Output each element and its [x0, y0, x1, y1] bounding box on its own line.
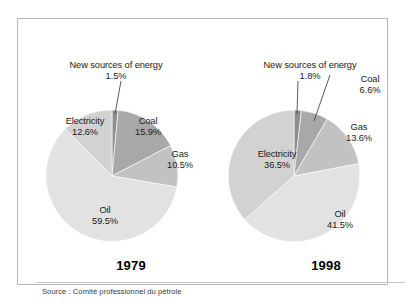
label-1998-oil-pct: 41.5%: [318, 220, 362, 231]
label-1998-electricity: Electricity 36.5%: [246, 149, 308, 171]
label-1998-oil-name: Oil: [334, 209, 345, 219]
label-1979-coal-pct: 15.9%: [122, 127, 174, 138]
chart-year-1979: 1979: [86, 258, 176, 273]
label-1998-electricity-pct: 36.5%: [246, 160, 308, 171]
label-1979-oil-name: Oil: [99, 205, 110, 215]
label-1998-new-sources-name: New sources of energy: [264, 60, 357, 70]
label-1998-coal: Coal 6.6%: [348, 74, 392, 96]
label-1998-coal-pct: 6.6%: [348, 85, 392, 96]
label-1979-new-sources: New sources of energy 1.5%: [46, 60, 186, 82]
label-1979-oil-pct: 59.5%: [80, 216, 130, 227]
label-1998-gas: Gas 13.6%: [338, 122, 380, 144]
source-note: Source : Comité professionnel du pétrole: [42, 287, 182, 296]
label-1979-gas: Gas 10.5%: [160, 149, 200, 171]
label-1998-gas-pct: 13.6%: [338, 133, 380, 144]
figure-root: New sources of energy 1.5% Coal 15.9% El…: [0, 0, 406, 303]
label-1998-electricity-name: Electricity: [258, 149, 297, 159]
label-1979-oil: Oil 59.5%: [80, 205, 130, 227]
label-1979-gas-name: Gas: [172, 149, 189, 159]
label-1998-coal-name: Coal: [361, 74, 380, 84]
leader-line-1998-new-sources: [297, 81, 298, 114]
source-divider: [36, 282, 405, 283]
label-1979-coal-name: Coal: [139, 116, 158, 126]
chart-year-1998: 1998: [281, 258, 371, 273]
chart-frame: New sources of energy 1.5% Coal 15.9% El…: [17, 18, 388, 285]
label-1979-gas-pct: 10.5%: [160, 160, 200, 171]
label-1979-coal: Coal 15.9%: [122, 116, 174, 138]
label-1979-new-sources-name: New sources of energy: [70, 60, 163, 70]
label-1979-electricity-name: Electricity: [66, 116, 105, 126]
label-1979-electricity-pct: 12.6%: [54, 127, 116, 138]
label-1998-oil: Oil 41.5%: [318, 209, 362, 231]
label-1979-new-sources-pct: 1.5%: [46, 71, 186, 82]
label-1998-gas-name: Gas: [351, 122, 368, 132]
label-1979-electricity: Electricity 12.6%: [54, 116, 116, 138]
